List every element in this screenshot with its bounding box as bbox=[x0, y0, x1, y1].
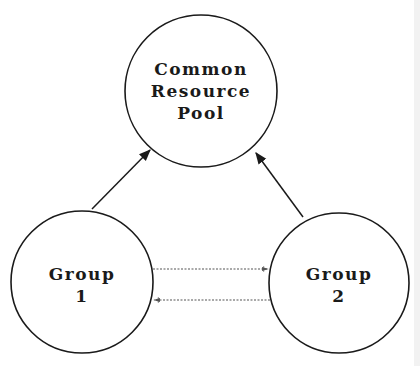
node-group-1: Group 1 bbox=[11, 211, 153, 353]
node-common-resource-pool: Common Resource Pool bbox=[125, 15, 277, 167]
pool-label-line-1: Common bbox=[154, 59, 248, 79]
group1-label-line-1: Group bbox=[49, 264, 116, 284]
node-group-2: Group 2 bbox=[269, 213, 409, 353]
group2-label-line-2: 2 bbox=[332, 286, 345, 306]
resource-pool-diagram: Common Resource Pool Group 1 Group 2 bbox=[0, 0, 420, 366]
arrow-group2-to-pool bbox=[256, 153, 303, 217]
group1-label-line-2: 1 bbox=[75, 286, 88, 306]
group2-label-line-1: Group bbox=[306, 264, 373, 284]
pool-label-line-2: Resource bbox=[151, 81, 251, 101]
arrow-group1-to-pool bbox=[92, 150, 150, 209]
pool-label-line-3: Pool bbox=[177, 103, 224, 123]
